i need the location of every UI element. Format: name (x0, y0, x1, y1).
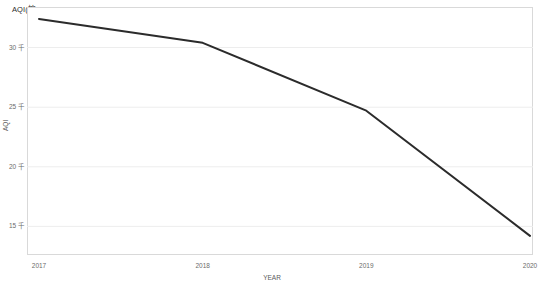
x-tick-label-2020: 2020 (523, 262, 537, 270)
x-axis-title: YEAR (0, 274, 544, 282)
plot-canvas (27, 7, 533, 255)
x-tick-label-2017: 2017 (32, 262, 46, 270)
aqi-line-chart: AQI(按 YEAR) 30 千 25 千 20 千 15 千 AQI 2017… (0, 0, 544, 291)
y-axis-ticks: 30 千 25 千 20 千 15 千 (0, 0, 27, 291)
y-tick-label-30k: 30 千 (1, 44, 27, 52)
y-tick-label-25k: 25 千 (1, 103, 27, 111)
y-tick-label-15k: 15 千 (1, 222, 27, 230)
aqi-data-line[interactable] (39, 19, 530, 236)
x-tick-label-2019: 2019 (359, 262, 373, 270)
x-tick-label-2018: 2018 (195, 262, 209, 270)
y-tick-label-20k: 20 千 (1, 163, 27, 171)
y-axis-title: AQI (2, 120, 10, 131)
